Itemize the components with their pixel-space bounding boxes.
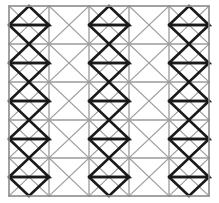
lattice-diagram — [0, 0, 219, 203]
lattice-figure — [0, 0, 219, 203]
